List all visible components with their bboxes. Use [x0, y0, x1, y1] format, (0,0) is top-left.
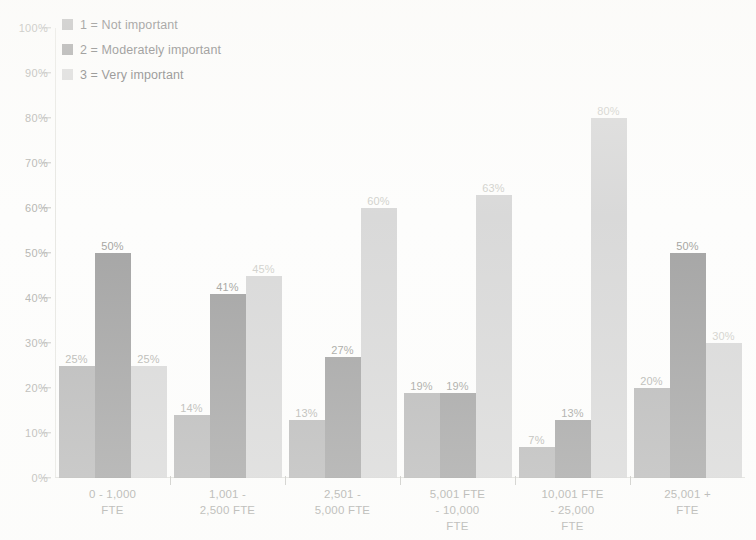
legend-item-very-important: 3 = Very important [62, 62, 221, 87]
bar-moderately-important[interactable]: 27% [325, 357, 361, 479]
bar-group-10001-25000-fte: 7% 13% 80% [515, 28, 630, 478]
legend-label-not-important: 1 = Not important [80, 18, 178, 32]
bar-value-label: 27% [331, 344, 354, 356]
bar-not-important[interactable]: 20% [634, 388, 670, 478]
bar-group-bars: 7% 13% 80% [519, 28, 627, 478]
bar-group-0-1000-fte: 25% 50% 25% [55, 28, 170, 478]
bar-very-important[interactable]: 30% [706, 343, 742, 478]
bar-value-label: 50% [676, 240, 699, 252]
legend-item-not-important: 1 = Not important [62, 12, 221, 37]
legend-label-very-important: 3 = Very important [80, 68, 184, 82]
bar-value-label: 19% [446, 380, 469, 392]
bar-value-label: 13% [561, 407, 584, 419]
bar-value-label: 13% [295, 407, 318, 419]
legend-swatch-very-important [62, 69, 73, 80]
x-axis-label-10001-25000-fte: 10,001 FTE- 25,000FTE [515, 486, 630, 534]
x-axis-label-1001-2500-fte: 1,001 -2,500 FTE [170, 486, 285, 534]
x-axis-label-2501-5000-fte: 2,501 -5,000 FTE [285, 486, 400, 534]
bar-moderately-important[interactable]: 50% [670, 253, 706, 478]
bar-very-important[interactable]: 80% [591, 118, 627, 478]
bar-value-label: 14% [180, 402, 203, 414]
legend-swatch-not-important [62, 19, 73, 30]
x-axis-label-25001-plus-fte: 25,001 +FTE [630, 486, 745, 534]
bar-moderately-important[interactable]: 50% [95, 253, 131, 478]
chart-page: 1 = Not important 2 = Moderately importa… [0, 0, 756, 540]
bar-value-label: 19% [410, 380, 433, 392]
x-axis-label-0-1000-fte: 0 - 1,000FTE [55, 486, 170, 534]
bar-value-label: 41% [216, 281, 239, 293]
bar-not-important[interactable]: 14% [174, 415, 210, 478]
bar-not-important[interactable]: 13% [289, 420, 325, 479]
bar-group-bars: 13% 27% 60% [289, 28, 397, 478]
bar-value-label: 63% [482, 182, 505, 194]
bar-moderately-important[interactable]: 19% [440, 393, 476, 479]
bar-not-important[interactable]: 7% [519, 447, 555, 479]
bar-value-label: 60% [367, 195, 390, 207]
bar-value-label: 80% [597, 105, 620, 117]
plot-area: 100% 90% 80% 70% 60% 50% 40% 30% 20% 10%… [55, 28, 745, 478]
bar-value-label: 30% [712, 330, 735, 342]
x-axis-tick [630, 476, 631, 485]
x-axis-tick [285, 476, 286, 485]
bar-group-bars: 14% 41% 45% [174, 28, 282, 478]
bar-very-important[interactable]: 60% [361, 208, 397, 478]
bar-group-bars: 25% 50% 25% [59, 28, 167, 478]
legend-label-moderately-important: 2 = Moderately important [80, 43, 221, 57]
bar-value-label: 25% [137, 353, 160, 365]
x-axis-label-5001-10000-fte: 5,001 FTE- 10,000FTE [400, 486, 515, 534]
legend-swatch-moderately-important [62, 44, 73, 55]
bar-value-label: 25% [65, 353, 88, 365]
x-axis-tick [170, 476, 171, 485]
bar-group-bars: 20% 50% 30% [634, 28, 742, 478]
bar-value-label: 7% [528, 434, 544, 446]
bar-value-label: 45% [252, 263, 275, 275]
bar-group-25001-plus-fte: 20% 50% 30% [630, 28, 745, 478]
bar-very-important[interactable]: 45% [246, 276, 282, 479]
bar-very-important[interactable]: 63% [476, 195, 512, 479]
bar-not-important[interactable]: 25% [59, 366, 95, 479]
bar-moderately-important[interactable]: 41% [210, 294, 246, 479]
bar-group-5001-10000-fte: 19% 19% 63% [400, 28, 515, 478]
legend-item-moderately-important: 2 = Moderately important [62, 37, 221, 62]
bar-groups: 25% 50% 25% 14% 41% 45% 13% 27% 60% [55, 28, 745, 478]
bar-group-1001-2500-fte: 14% 41% 45% [170, 28, 285, 478]
bar-not-important[interactable]: 19% [404, 393, 440, 479]
bar-group-2501-5000-fte: 13% 27% 60% [285, 28, 400, 478]
bar-value-label: 20% [640, 375, 663, 387]
x-axis-tick [400, 476, 401, 485]
chart-legend: 1 = Not important 2 = Moderately importa… [62, 12, 221, 87]
x-axis-tick [515, 476, 516, 485]
bar-group-bars: 19% 19% 63% [404, 28, 512, 478]
bar-value-label: 50% [101, 240, 124, 252]
bar-moderately-important[interactable]: 13% [555, 420, 591, 479]
x-axis-labels: 0 - 1,000FTE 1,001 -2,500 FTE 2,501 -5,0… [55, 486, 745, 534]
bar-very-important[interactable]: 25% [131, 366, 167, 479]
